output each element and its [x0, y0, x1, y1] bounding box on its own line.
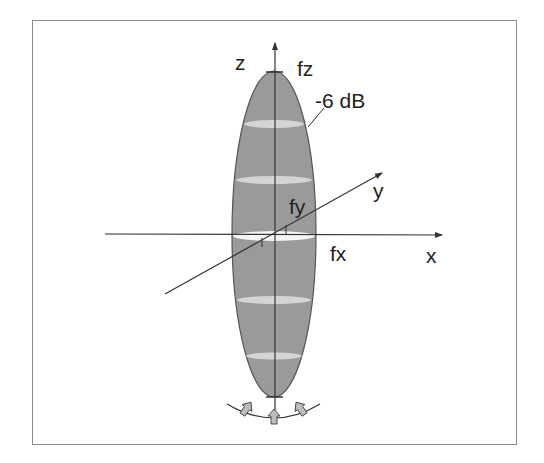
minus-6db-label: -6 dB	[315, 90, 365, 111]
x-axis-label: x	[426, 245, 437, 266]
y-axis-label: y	[373, 180, 384, 201]
fy-label: fy	[289, 196, 305, 217]
z-axis-label: z	[235, 52, 246, 73]
focal-zone-diagram	[0, 0, 544, 463]
arrow-up-icon-center	[268, 409, 280, 424]
ultrasound-arrows	[237, 399, 309, 424]
fx-label: fx	[330, 243, 346, 264]
fz-label: fz	[297, 58, 313, 79]
